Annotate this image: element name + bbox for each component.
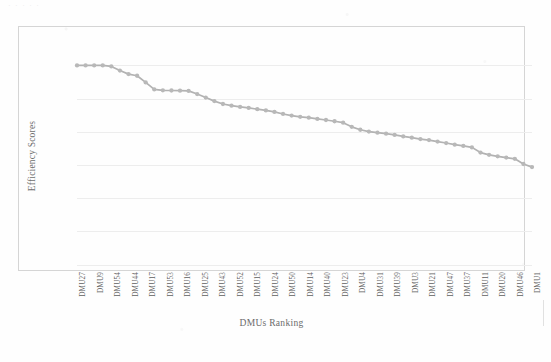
efficiency-score-series [77, 55, 532, 273]
data-point-marker [178, 89, 182, 93]
page-canvas: · · · · · Efficiency Scores DMU27DMU9DMU… [0, 0, 551, 362]
data-point-marker [435, 139, 439, 143]
data-point-marker [75, 63, 79, 67]
data-point-marker [144, 80, 148, 84]
data-point-marker [401, 134, 405, 138]
x-axis-title: DMUs Ranking [18, 318, 525, 328]
data-point-marker [152, 87, 156, 91]
x-axis-tick-label: DMU27 [79, 272, 91, 316]
x-axis-tick-label: DMU25 [202, 272, 214, 316]
data-point-marker [281, 112, 285, 116]
x-axis-tick-label: DMU43 [219, 272, 231, 316]
x-axis-tick-label: DMU15 [254, 272, 266, 316]
data-point-marker [195, 92, 199, 96]
x-axis-tick-label: DMU21 [429, 272, 441, 316]
x-axis-tick-label: DMU52 [237, 272, 249, 316]
data-point-marker [212, 99, 216, 103]
x-axis-tick-label: DMU39 [394, 272, 406, 316]
x-axis-tick-label: DMU44 [132, 272, 144, 316]
x-axis-tick-label: DMU40 [324, 272, 336, 316]
data-point-marker [504, 155, 508, 159]
x-axis-tick-label: DMU16 [184, 272, 196, 316]
data-point-marker [496, 154, 500, 158]
y-axis-title: Efficiency Scores [27, 0, 37, 96]
x-axis-tick-label: DMU20 [499, 272, 511, 316]
data-point-marker [392, 133, 396, 137]
data-point-marker [92, 63, 96, 67]
data-point-marker [101, 63, 105, 67]
data-point-marker [221, 102, 225, 106]
data-point-marker [418, 137, 422, 141]
data-point-marker [307, 116, 311, 120]
data-point-marker [332, 119, 336, 123]
data-point-marker [126, 72, 130, 76]
x-axis-tick-label: DMU4 [359, 272, 371, 316]
data-point-marker [375, 131, 379, 135]
x-axis-tick-label: DMU24 [272, 272, 284, 316]
data-point-marker [427, 138, 431, 142]
data-point-marker [186, 89, 190, 93]
data-point-marker [530, 165, 534, 169]
data-point-marker [289, 113, 293, 117]
data-point-marker [109, 64, 113, 68]
x-axis-tick-label: DMU17 [149, 272, 161, 316]
data-point-marker [521, 162, 525, 166]
data-point-marker [444, 141, 448, 145]
data-point-marker [487, 153, 491, 157]
data-point-marker [238, 105, 242, 109]
data-point-marker [264, 108, 268, 112]
data-point-marker [470, 145, 474, 149]
x-axis-tick-label: DMU50 [289, 272, 301, 316]
data-point-marker [315, 117, 319, 121]
data-point-marker [161, 88, 165, 92]
y-axis-title-label: Efficiency Scores [27, 96, 37, 216]
data-point-marker [367, 129, 371, 133]
data-point-marker [478, 150, 482, 154]
data-point-marker [324, 118, 328, 122]
x-axis-tick-label: DMU14 [307, 272, 319, 316]
data-point-marker [135, 74, 139, 78]
data-point-marker [453, 143, 457, 147]
data-point-marker [358, 128, 362, 132]
x-axis-tick-label: DMU46 [517, 272, 529, 316]
data-point-marker [118, 68, 122, 72]
data-point-marker [461, 144, 465, 148]
data-point-marker [247, 106, 251, 110]
data-point-marker [272, 110, 276, 114]
data-point-marker [410, 135, 414, 139]
data-point-marker [341, 121, 345, 125]
x-axis-tick-label: DMU31 [377, 272, 389, 316]
data-point-marker [513, 157, 517, 161]
data-point-marker [204, 95, 208, 99]
x-axis-tick-label: DMU23 [342, 272, 354, 316]
x-axis-tick-label: DMU47 [447, 272, 459, 316]
data-point-marker [298, 115, 302, 119]
x-axis-tick-label: DMU54 [114, 272, 126, 316]
data-point-marker [83, 63, 87, 67]
x-axis-tick-label: DMU53 [167, 272, 179, 316]
page-top-artifact: · · · · · [8, 1, 308, 11]
data-point-marker [169, 88, 173, 92]
data-point-marker [255, 107, 259, 111]
data-point-marker [350, 125, 354, 129]
x-axis-tick-label: DMU11 [482, 272, 494, 316]
x-axis-tick-label: DMU1 [534, 272, 546, 316]
x-axis-tick-label: DMU9 [97, 272, 109, 316]
data-point-marker [229, 104, 233, 108]
x-axis-tick-label: DMU3 [412, 272, 424, 316]
x-axis-tick-labels: DMU27DMU9DMU54DMU44DMU17DMU53DMU16DMU25D… [18, 272, 525, 316]
chart-frame [18, 26, 525, 271]
x-axis-tick-label: DMU37 [464, 272, 476, 316]
plot-area [77, 55, 532, 273]
data-point-marker [384, 132, 388, 136]
